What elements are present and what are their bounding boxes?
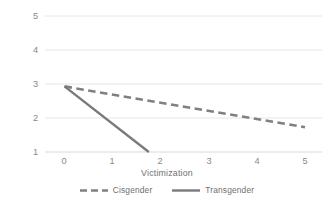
series-line-transgender	[65, 86, 149, 152]
legend-swatch-solid-icon	[172, 186, 200, 195]
x-tick-label-4: 4	[244, 156, 270, 166]
legend-item-cisgender: Cisgender	[80, 185, 153, 195]
legend-label-cisgender: Cisgender	[113, 185, 153, 195]
x-tick-label-0: 0	[51, 156, 77, 166]
x-axis-title: Victimization	[0, 168, 334, 178]
x-tick-label-2: 2	[147, 156, 173, 166]
x-tick-label-3: 3	[196, 156, 222, 166]
x-tick-label-1: 1	[99, 156, 125, 166]
legend-item-transgender: Transgender	[172, 185, 254, 195]
x-tick-label-5: 5	[292, 156, 318, 166]
line-chart: Self-esteem 5 4 3 2 1 0 1 2 3 4 5 Victim…	[0, 0, 334, 209]
legend-swatch-dashed-icon	[80, 186, 108, 195]
gridlines	[45, 16, 322, 152]
chart-legend: Cisgender Transgender	[0, 183, 334, 197]
legend-label-transgender: Transgender	[205, 185, 254, 195]
series-line-cisgender	[65, 86, 306, 127]
